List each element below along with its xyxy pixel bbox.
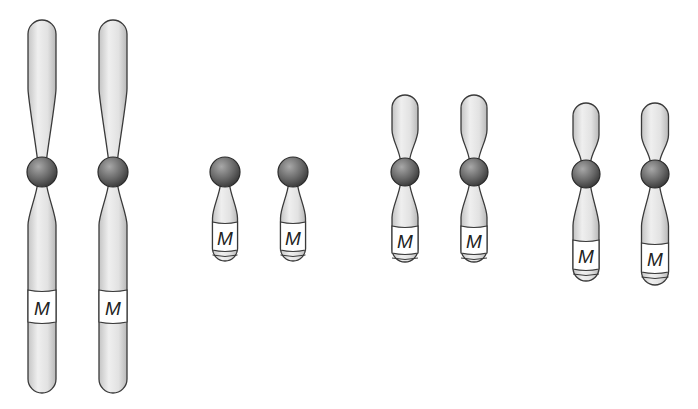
q-arm bbox=[99, 184, 127, 393]
marker-label: M bbox=[217, 228, 233, 249]
group-2-acrocentric: MM bbox=[210, 157, 308, 261]
centromere bbox=[641, 160, 669, 188]
chromosome-diagram: MMMMMMMM bbox=[0, 0, 698, 409]
group-3-metacentric-small: MM bbox=[391, 95, 488, 262]
chromosome: M bbox=[210, 157, 240, 261]
group-1-long-submetacentric: MM bbox=[27, 20, 128, 393]
p-arm bbox=[99, 20, 127, 160]
chromosome: M bbox=[278, 157, 308, 261]
p-arm bbox=[461, 95, 487, 161]
marker-label: M bbox=[466, 231, 482, 252]
centromere bbox=[572, 160, 600, 188]
centromere bbox=[27, 157, 57, 187]
chromosome: M bbox=[641, 103, 669, 285]
centromere bbox=[210, 157, 240, 187]
chromosome-groups: MMMMMMMM bbox=[27, 20, 669, 393]
marker-label: M bbox=[397, 231, 413, 252]
centromere bbox=[391, 158, 419, 186]
marker-label: M bbox=[34, 298, 50, 319]
p-arm bbox=[392, 95, 418, 161]
chromosome: M bbox=[27, 20, 57, 393]
marker-label: M bbox=[647, 249, 663, 270]
chromosome: M bbox=[572, 103, 600, 281]
chromosome: M bbox=[98, 20, 128, 393]
p-arm bbox=[573, 103, 599, 163]
centromere bbox=[278, 157, 308, 187]
centromere bbox=[98, 157, 128, 187]
marker-label: M bbox=[285, 228, 301, 249]
p-arm bbox=[642, 103, 669, 163]
chromosome: M bbox=[391, 95, 419, 262]
centromere bbox=[460, 158, 488, 186]
marker-label: M bbox=[578, 246, 594, 267]
p-arm bbox=[28, 20, 56, 160]
marker-label: M bbox=[105, 298, 121, 319]
chromosome: M bbox=[460, 95, 488, 262]
group-4-metacentric-longer-q: MM bbox=[572, 103, 669, 285]
q-arm bbox=[28, 184, 56, 393]
